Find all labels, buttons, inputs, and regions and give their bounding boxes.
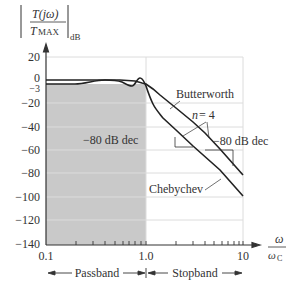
n-label: n = 4 (192, 108, 215, 122)
svg-text:−100: −100 (15, 190, 40, 204)
svg-text:−140: −140 (15, 237, 40, 251)
svg-text:−3: −3 (29, 83, 40, 94)
grid-vertical (146, 57, 243, 245)
svg-text:−120: −120 (15, 213, 40, 227)
svg-text:ω: ω (268, 249, 276, 261)
filter-response-chart: T(jω) T MAX dB (0, 0, 301, 294)
slope-label-left: −80 dB dec (83, 133, 138, 147)
stopband-label: Stopband (172, 266, 217, 280)
slope-label-right: −80 dB dec (213, 134, 268, 148)
svg-text:C: C (277, 254, 282, 263)
y-axis-label: T(jω) T MAX dB (21, 5, 81, 42)
x-axis-label: ω ω C (268, 232, 286, 263)
svg-text:T(jω): T(jω) (32, 7, 58, 21)
svg-text:n: n (192, 108, 198, 122)
svg-text:0.1: 0.1 (39, 249, 54, 263)
chebychev-label: Chebychev (149, 182, 203, 196)
svg-text:MAX: MAX (38, 27, 60, 37)
svg-text:dB: dB (70, 32, 81, 42)
svg-text:1.0: 1.0 (139, 249, 154, 263)
butterworth-label: Butterworth (176, 87, 234, 101)
passband-shading (46, 84, 146, 245)
svg-text:−20: −20 (21, 96, 40, 110)
x-tick-labels: 0.1 1.0 10 (39, 249, 250, 263)
svg-text:20: 20 (28, 50, 40, 64)
passband-label: Passband (75, 266, 120, 280)
svg-text:−60: −60 (21, 143, 40, 157)
svg-text:ω: ω (275, 232, 283, 246)
chebychev-leader (205, 179, 221, 190)
svg-text:10: 10 (237, 249, 249, 263)
y-tick-labels: 20 0 −3 −20 −40 −60 −80 −100 −120 −140 (15, 50, 40, 251)
svg-text:−80: −80 (21, 166, 40, 180)
svg-text:−40: −40 (21, 120, 40, 134)
svg-text:T: T (30, 24, 38, 38)
svg-text:= 4: = 4 (199, 108, 215, 122)
